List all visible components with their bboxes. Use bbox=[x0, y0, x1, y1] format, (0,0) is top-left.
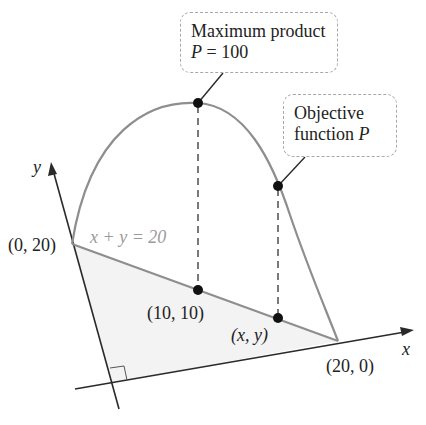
callout-maximum-line2: P = 100 bbox=[191, 42, 327, 63]
objective-point bbox=[273, 181, 283, 191]
max-point bbox=[193, 98, 203, 108]
callout-objective-line2: function P bbox=[294, 124, 386, 145]
general-point-label: (x, y) bbox=[231, 326, 268, 344]
callout-objective-function: Objective function P bbox=[283, 94, 397, 157]
objective-function-diagram: Maximum product P = 100 Objective functi… bbox=[0, 0, 426, 425]
x-axis-label: x bbox=[402, 340, 410, 358]
x-intercept-label: (20, 0) bbox=[326, 357, 374, 375]
x-axis-arrow-icon bbox=[400, 327, 414, 336]
general-point bbox=[273, 313, 283, 323]
y-axis-label: y bbox=[33, 158, 41, 176]
midpoint-label: (10, 10) bbox=[147, 304, 204, 322]
callout-maximum-value: = 100 bbox=[202, 42, 248, 62]
callout-maximum-product: Maximum product P = 100 bbox=[180, 12, 338, 73]
y-axis-arrow-icon bbox=[48, 162, 57, 176]
constraint-label: x + y = 20 bbox=[90, 228, 166, 246]
y-intercept-label: (0, 20) bbox=[8, 236, 56, 254]
feasible-region bbox=[72, 244, 338, 383]
callout-maximum-line1: Maximum product bbox=[191, 21, 327, 42]
callout-objective-text: function bbox=[294, 124, 359, 144]
callout-objective-line1: Objective bbox=[294, 103, 386, 124]
midpoint-point bbox=[193, 285, 203, 295]
callout-leader-max bbox=[198, 73, 223, 103]
callout-maximum-var: P bbox=[191, 42, 202, 62]
callout-objective-var: P bbox=[359, 124, 370, 144]
callout-leader-objective bbox=[278, 157, 305, 186]
